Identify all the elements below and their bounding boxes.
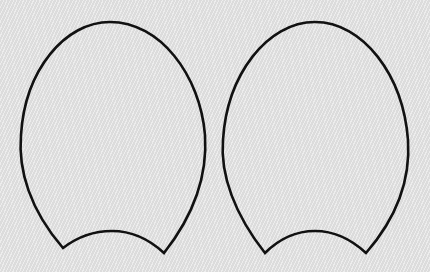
left-egg-shape <box>21 22 206 253</box>
shapes-drawing <box>0 0 430 272</box>
right-egg-shape <box>223 22 409 253</box>
canvas <box>0 0 430 272</box>
